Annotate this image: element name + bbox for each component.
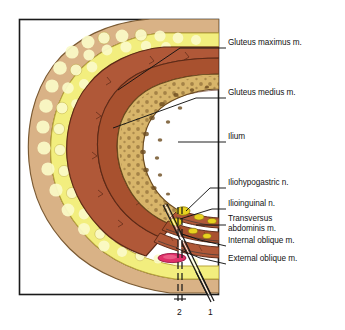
needle-marker-1-label: 1 <box>208 307 213 317</box>
needle-marker-2-label: 2 <box>177 307 182 317</box>
needle-2-external <box>174 295 186 303</box>
anatomical-illustration: Gluteus maximus m. Gluteus medius m. Ili… <box>0 0 345 330</box>
label-external-oblique: External oblique m. <box>228 254 297 264</box>
illustration-canvas <box>0 0 345 330</box>
label-ilioinguinal-nerve: Ilioinguinal n. <box>228 199 275 209</box>
label-gluteus-medius: Gluteus medius m. <box>228 88 295 98</box>
label-gluteus-maximus: Gluteus maximus m. <box>228 38 302 48</box>
label-internal-oblique: Internal oblique m. <box>228 236 294 246</box>
label-ilium: Ilium <box>228 132 245 142</box>
label-iliohypogastric-nerve: Iliohypogastric n. <box>228 178 289 188</box>
label-transversus-abdominis: Transversus abdominis m. <box>228 214 276 233</box>
anesthetic-highlight <box>163 255 177 259</box>
